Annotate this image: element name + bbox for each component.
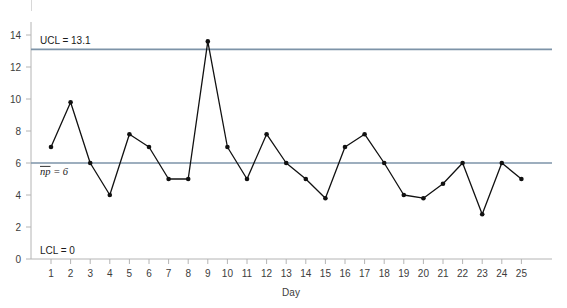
data-point-marker-group: [49, 39, 524, 216]
x-axis-tick-label: 10: [222, 268, 234, 279]
x-axis-tick-label: 17: [359, 268, 371, 279]
y-axis-tick-label: 4: [15, 190, 21, 201]
x-axis-tick-label: 7: [166, 268, 172, 279]
data-point-day-19: [402, 193, 407, 198]
data-point-day-23: [480, 212, 485, 217]
chart-canvas: 02468101214 1234567891011121314151617181…: [0, 0, 567, 308]
data-point-day-7: [166, 177, 171, 182]
x-axis-tick-label: 13: [281, 268, 293, 279]
data-point-day-22: [460, 161, 465, 166]
y-axis-tick-label: 10: [10, 94, 22, 105]
data-point-day-4: [108, 193, 113, 198]
x-axis-tick-label: 15: [320, 268, 332, 279]
x-axis-tick-label: 21: [437, 268, 449, 279]
data-point-day-20: [421, 196, 426, 201]
x-axis-tick-label: 2: [68, 268, 74, 279]
data-point-day-17: [362, 132, 367, 137]
x-axis-title: Day: [282, 287, 300, 298]
data-point-day-5: [127, 132, 132, 137]
data-point-day-11: [245, 177, 250, 182]
x-axis-tick-label: 11: [242, 268, 253, 279]
x-axis-tick-label: 20: [418, 268, 430, 279]
control-limit-label-lcl: LCL = 0: [40, 245, 75, 256]
y-axis-tick-label: 0: [15, 254, 21, 265]
x-axis-tick-label: 12: [261, 268, 273, 279]
data-series-line: [51, 41, 521, 214]
data-point-day-8: [186, 177, 191, 182]
data-point-day-3: [88, 161, 93, 166]
data-point-day-18: [382, 161, 387, 166]
y-axis-tick-label: 8: [15, 126, 21, 137]
x-axis-tick-label: 5: [127, 268, 133, 279]
y-axis-tick-label: 12: [10, 62, 22, 73]
x-axis-tick-label: 16: [339, 268, 351, 279]
control-limit-line-group: [31, 49, 552, 163]
data-point-day-12: [264, 132, 269, 137]
data-point-day-21: [441, 182, 446, 187]
x-axis-tick-label: 1: [48, 268, 54, 279]
data-point-day-16: [343, 145, 348, 150]
data-point-day-15: [323, 196, 328, 201]
data-point-day-25: [519, 177, 524, 182]
x-axis-tick-label: 4: [107, 268, 113, 279]
data-point-day-2: [68, 100, 73, 105]
x-axis-tick-label: 24: [496, 268, 508, 279]
x-axis-tick-label: 18: [379, 268, 391, 279]
control-limit-label-group: UCL = 13.1np = 6LCL = 0: [40, 35, 91, 256]
y-axis-tick-label: 2: [15, 222, 21, 233]
x-axis-tick-label: 19: [398, 268, 410, 279]
x-axis-tick-label: 23: [477, 268, 489, 279]
y-axis-tick-label: 14: [10, 30, 22, 41]
x-axis-tick-group: 1234567891011121314151617181920212223242…: [48, 259, 527, 279]
x-axis-tick-label: 3: [87, 268, 93, 279]
top-edge-artifact: [31, 0, 32, 11]
x-axis-tick-label: 6: [146, 268, 152, 279]
data-point-day-10: [225, 145, 230, 150]
y-axis-tick-label: 6: [15, 158, 21, 169]
data-point-day-9: [206, 39, 211, 44]
x-axis-tick-label: 9: [205, 268, 211, 279]
data-point-day-13: [284, 161, 289, 166]
center-line-label-text: np = 6: [40, 166, 69, 177]
x-axis-tick-label: 25: [516, 268, 528, 279]
control-limit-label-center: np = 6: [40, 166, 69, 177]
x-axis-tick-label: 14: [300, 268, 312, 279]
data-point-day-6: [147, 145, 152, 150]
data-point-day-24: [500, 161, 505, 166]
data-point-day-1: [49, 145, 54, 150]
y-axis-tick-group: 02468101214: [10, 30, 31, 265]
np-control-chart: 02468101214 1234567891011121314151617181…: [0, 0, 567, 308]
control-limit-label-ucl: UCL = 13.1: [40, 35, 91, 46]
data-point-day-14: [304, 177, 309, 182]
x-axis-tick-label: 8: [185, 268, 191, 279]
x-axis-tick-label: 22: [457, 268, 469, 279]
